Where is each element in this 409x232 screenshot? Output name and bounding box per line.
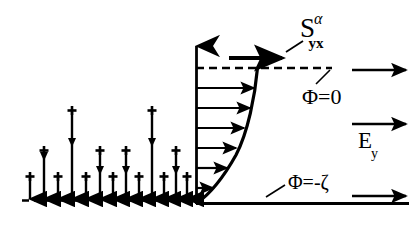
dipole — [148, 106, 157, 199]
dipole — [172, 146, 181, 199]
dipole — [122, 146, 131, 199]
dipole — [183, 172, 192, 199]
field-label: Ey — [358, 129, 379, 157]
dipole — [109, 172, 118, 199]
phi-zero-leader — [316, 70, 330, 84]
potential-zeta-label: Φ=-ζ — [288, 172, 329, 192]
dipole — [135, 172, 144, 199]
phi-zeta-leader — [266, 185, 285, 197]
potential-zero-label: Φ=0 — [302, 86, 342, 108]
figure-root: Sαyx Φ=0 Φ=-ζ Ey — [0, 0, 409, 232]
dipole-layer — [22, 106, 192, 201]
dipole — [160, 172, 169, 199]
dipole — [96, 146, 105, 199]
diagram-canvas — [0, 0, 409, 232]
shear-stress-label: Sαyx — [300, 14, 338, 46]
dipole — [68, 106, 77, 199]
shear-stress-superscript: α — [314, 10, 322, 27]
dipole — [82, 172, 91, 199]
field-base: E — [358, 128, 372, 153]
dipole — [40, 146, 49, 199]
dipole — [26, 172, 35, 199]
dipole — [54, 172, 63, 199]
shear-stress-subscript: yx — [308, 35, 323, 51]
field-subscript: y — [371, 146, 378, 161]
